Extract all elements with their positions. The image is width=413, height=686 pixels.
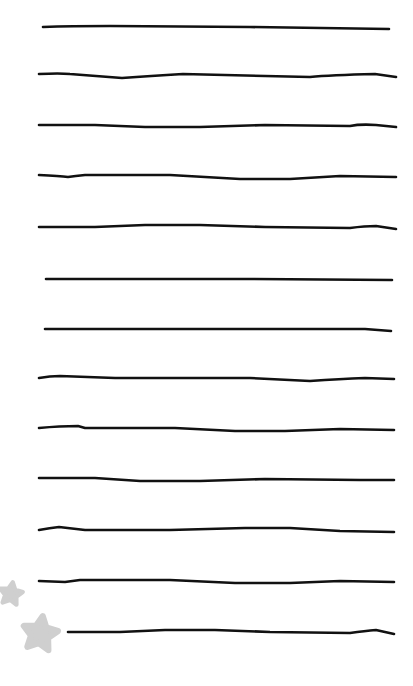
handdrawn-line-6 (46, 279, 392, 280)
lined-note-page (0, 0, 413, 686)
